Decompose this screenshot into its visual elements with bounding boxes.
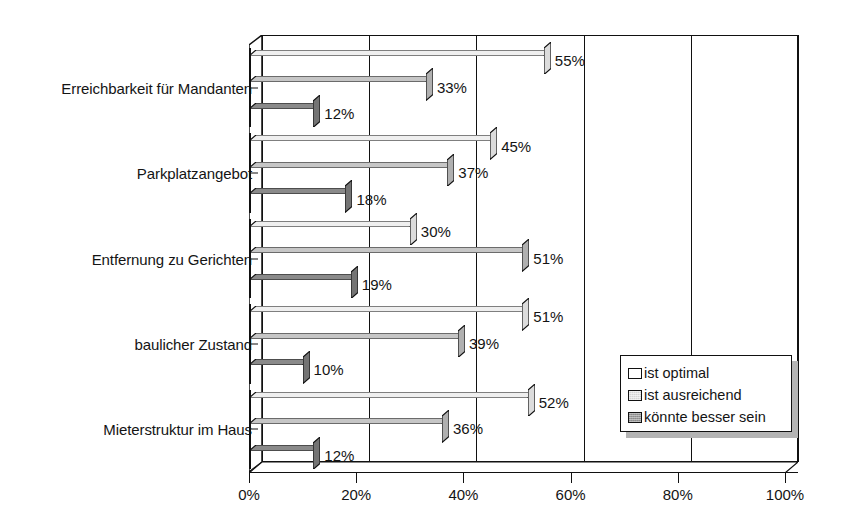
- bar-side-face: [426, 68, 433, 101]
- bar-top-face: [249, 127, 497, 133]
- bar-top-face: [249, 325, 465, 331]
- x-axis-tick: [571, 472, 572, 483]
- bar-top-face: [249, 266, 358, 272]
- x-tick-label: 0%: [238, 486, 260, 503]
- legend-item: ist ausreichend: [628, 384, 791, 406]
- bar-top-face: [249, 351, 310, 357]
- legend-swatch-ausreichend: [628, 390, 642, 401]
- legend-label: könnte besser sein: [644, 410, 766, 425]
- category-label: Entfernung zu Gerichten: [92, 250, 252, 267]
- bar-top-face: [249, 384, 535, 390]
- bar-chart: 0%20%40%60%80%100% Erreichbarkeit für Ma…: [0, 0, 844, 532]
- bar-front-face: [249, 101, 251, 128]
- bar-side-face: [313, 437, 320, 470]
- legend-item: ist optimal: [628, 362, 791, 384]
- category-label: Erreichbarkeit für Mandanten: [61, 79, 252, 96]
- x-axis-tick: [678, 472, 679, 483]
- bar-top-face: [249, 42, 551, 48]
- x-tick-label: 80%: [663, 486, 693, 503]
- bar-value-label: 10%: [314, 361, 344, 378]
- bar-value-label: 52%: [539, 393, 569, 410]
- legend-label: ist optimal: [644, 366, 709, 381]
- legend-item: könnte besser sein: [628, 406, 791, 428]
- bar: [249, 443, 313, 470]
- x-axis-tick: [249, 472, 250, 483]
- bar-value-label: 19%: [362, 276, 392, 293]
- bar-top-face: [249, 95, 320, 101]
- bar-side-face: [447, 154, 454, 187]
- bar-top-face: [249, 239, 529, 245]
- bar-value-label: 55%: [555, 52, 585, 69]
- bar: [249, 101, 313, 128]
- x-tick-label: 60%: [556, 486, 586, 503]
- bar-front-face: [249, 272, 251, 299]
- gridline: [584, 35, 585, 462]
- bar-value-label: 18%: [356, 190, 386, 207]
- bar-side-face: [544, 42, 551, 75]
- x-axis-tick: [785, 472, 786, 483]
- x-tick-label: 100%: [766, 486, 804, 503]
- bar-top-face: [249, 437, 320, 443]
- bar-value-label: 30%: [421, 223, 451, 240]
- bar-value-label: 45%: [501, 137, 531, 154]
- bar-value-label: 36%: [453, 420, 483, 437]
- legend-swatch-besser: [628, 412, 642, 423]
- bar-side-face: [345, 180, 352, 213]
- bar-value-label: 51%: [533, 249, 563, 266]
- bar-front-face: [249, 186, 251, 213]
- bar-top-face: [249, 410, 449, 416]
- bar-side-face: [351, 266, 358, 299]
- chart-legend: ist optimal ist ausreichend könnte besse…: [620, 355, 792, 432]
- bar-top-face: [249, 180, 352, 186]
- x-tick-label: 20%: [341, 486, 371, 503]
- bar-side-face: [522, 239, 529, 272]
- bar-side-face: [313, 95, 320, 128]
- bar-top-face: [249, 68, 433, 74]
- bar-value-label: 37%: [458, 164, 488, 181]
- bar-front-face: [249, 357, 251, 384]
- bar: [249, 357, 303, 384]
- bar-top-face: [249, 213, 417, 219]
- bar-value-label: 39%: [469, 334, 499, 351]
- bar-value-label: 12%: [324, 105, 354, 122]
- bar-side-face: [442, 410, 449, 443]
- x-axis-tick: [463, 472, 464, 483]
- bar-side-face: [458, 325, 465, 358]
- category-label: baulicher Zustand: [134, 335, 252, 352]
- x-axis-tick: [356, 472, 357, 483]
- category-label: Mieterstruktur im Haus: [103, 421, 252, 438]
- bar-side-face: [528, 384, 535, 417]
- bar-front-face: [249, 443, 251, 470]
- bar-side-face: [522, 298, 529, 331]
- bar-value-label: 12%: [324, 446, 354, 463]
- x-axis-line: [249, 472, 798, 473]
- legend-swatch-optimal: [628, 368, 642, 379]
- x-tick-label: 40%: [448, 486, 478, 503]
- bar-value-label: 33%: [437, 78, 467, 95]
- bar-side-face: [303, 351, 310, 384]
- bar: [249, 186, 345, 213]
- category-label: Parkplatzangebot: [137, 165, 252, 182]
- bar: [249, 272, 351, 299]
- legend-label: ist ausreichend: [644, 388, 742, 403]
- bar-top-face: [249, 154, 454, 160]
- gridline: [798, 35, 799, 462]
- bar-side-face: [490, 127, 497, 160]
- bar-top-face: [249, 298, 529, 304]
- bar-value-label: 51%: [533, 308, 563, 325]
